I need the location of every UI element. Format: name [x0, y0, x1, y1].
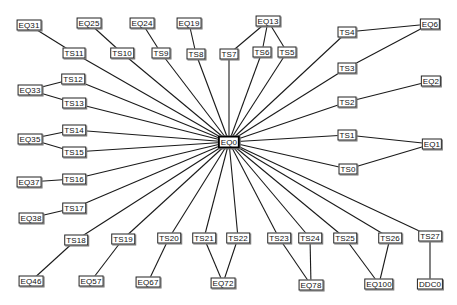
edge-ts0-eq1: [348, 144, 432, 169]
node-ts22[interactable]: TS22: [226, 233, 250, 244]
node-eq37[interactable]: EQ37: [17, 177, 42, 188]
node-ts4[interactable]: TS4: [338, 27, 357, 38]
edge-eq0-ts18: [76, 142, 229, 240]
node-eq67[interactable]: EQ67: [136, 277, 161, 288]
edge-eq0-ts11: [74, 53, 229, 142]
node-eq31[interactable]: EQ31: [17, 20, 42, 31]
node-ts23[interactable]: TS23: [267, 233, 291, 244]
node-ts6[interactable]: TS6: [253, 47, 272, 58]
edge-eq0-ts0: [229, 142, 348, 169]
edge-ts23-eq78: [279, 238, 311, 285]
edge-ts26-eq100: [379, 238, 390, 284]
node-eq0[interactable]: EQ0: [218, 136, 240, 149]
edge-eq0-ts5: [229, 52, 287, 142]
node-eq24[interactable]: EQ24: [130, 18, 155, 29]
edge-eq0-ts21: [204, 142, 229, 238]
edge-eq0-ts24: [229, 142, 310, 238]
edge-eq0-ts25: [229, 142, 345, 238]
edge-eq0-ts6: [229, 52, 262, 142]
node-ts12[interactable]: TS12: [61, 74, 85, 85]
node-ts1[interactable]: TS1: [338, 130, 357, 141]
edge-eq0-ts26: [229, 142, 390, 238]
node-ts24[interactable]: TS24: [298, 233, 322, 244]
node-ts21[interactable]: TS21: [192, 233, 216, 244]
edge-eq0-ts3: [229, 68, 347, 142]
node-eq35[interactable]: EQ35: [18, 134, 43, 145]
node-ts8[interactable]: TS8: [187, 49, 206, 60]
node-eq33[interactable]: EQ33: [18, 85, 43, 96]
node-ts14[interactable]: TS14: [62, 125, 86, 136]
node-ts0[interactable]: TS0: [339, 164, 358, 175]
node-eq100[interactable]: EQ100: [364, 279, 393, 290]
node-ts15[interactable]: TS15: [62, 147, 86, 158]
node-eq78[interactable]: EQ78: [299, 280, 324, 291]
node-eq57[interactable]: EQ57: [79, 276, 104, 287]
node-eq19[interactable]: EQ19: [177, 18, 202, 29]
edge-ts25-eq100: [345, 238, 379, 284]
edge-ts20-eq67: [148, 238, 169, 282]
node-eq72[interactable]: EQ72: [211, 278, 236, 289]
node-ts3[interactable]: TS3: [338, 63, 357, 74]
node-ts16[interactable]: TS16: [62, 174, 86, 185]
node-ts7[interactable]: TS7: [220, 49, 239, 60]
node-eq13[interactable]: EQ13: [256, 16, 281, 27]
node-ts2[interactable]: TS2: [338, 97, 357, 108]
node-eq1[interactable]: EQ1: [422, 139, 442, 150]
node-ts20[interactable]: TS20: [157, 233, 181, 244]
edge-ts24-eq78: [310, 238, 311, 285]
node-ts18[interactable]: TS18: [64, 235, 88, 246]
node-eq38[interactable]: EQ38: [19, 213, 44, 224]
node-ts19[interactable]: TS19: [111, 234, 135, 245]
edge-ts1-eq1: [347, 135, 432, 144]
node-ts26[interactable]: TS26: [378, 233, 402, 244]
edge-ts22-eq72: [223, 238, 238, 283]
edge-ts21-eq72: [204, 238, 223, 283]
node-eq2[interactable]: EQ2: [421, 76, 441, 87]
node-ddc0[interactable]: DDC0: [417, 279, 443, 290]
node-ts9[interactable]: TS9: [152, 48, 171, 59]
edge-eq0-ts27: [229, 142, 430, 236]
edge-eq0-ts19: [123, 142, 229, 239]
edge-eq0-ts17: [74, 142, 229, 208]
node-ts5[interactable]: TS5: [278, 47, 297, 58]
node-eq25[interactable]: EQ25: [77, 18, 102, 29]
node-eq6[interactable]: EQ6: [420, 19, 440, 30]
edge-eq0-ts20: [169, 142, 229, 238]
node-ts17[interactable]: TS17: [62, 203, 86, 214]
network-diagram: EQ0EQ31EQ25EQ24EQ19EQ13EQ6TS11TS10TS9TS8…: [0, 0, 457, 305]
edge-ts2-eq2: [347, 81, 431, 102]
node-ts27[interactable]: TS27: [418, 231, 442, 242]
node-ts25[interactable]: TS25: [333, 233, 357, 244]
node-ts11[interactable]: TS11: [63, 48, 86, 59]
node-ts13[interactable]: TS13: [62, 98, 86, 109]
node-eq46[interactable]: EQ46: [19, 276, 44, 287]
node-ts10[interactable]: TS10: [110, 48, 134, 59]
